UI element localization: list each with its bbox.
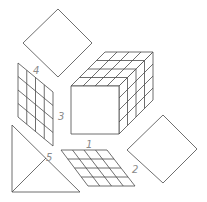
shapes-layer — [12, 9, 197, 192]
cube-diagram: 1 2 3 4 5 — [0, 0, 207, 202]
label-4: 4 — [33, 65, 39, 76]
label-2: 2 — [132, 164, 138, 175]
label-5: 5 — [46, 152, 52, 163]
label-1: 1 — [86, 139, 92, 150]
cube-front-face — [71, 86, 119, 134]
label-3: 3 — [58, 111, 64, 122]
